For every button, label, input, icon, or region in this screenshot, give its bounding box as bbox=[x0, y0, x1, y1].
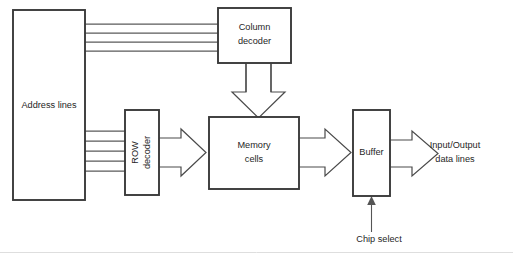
address-lines-label: Address lines bbox=[21, 100, 77, 110]
row-decoder-label-line1: ROW bbox=[130, 141, 140, 164]
block-diagram-svg: Address lines Column decoder ROW decoder… bbox=[0, 0, 513, 255]
arrow-row-decoder-to-memory-cells bbox=[159, 129, 206, 176]
block-row-decoder[interactable]: ROW decoder bbox=[125, 110, 159, 195]
hollow-right-arrow bbox=[299, 129, 351, 176]
io-data-lines-line1: Input/Output bbox=[430, 140, 481, 150]
memory-cells-box[interactable] bbox=[209, 117, 299, 189]
bus-address-to-row-decoder bbox=[85, 131, 125, 171]
block-memory-cells[interactable]: Memory cells bbox=[209, 117, 299, 189]
column-decoder-label-line1: Column bbox=[239, 22, 271, 32]
memory-cells-label-line1: Memory bbox=[237, 140, 271, 150]
arrow-memory-cells-to-buffer bbox=[299, 129, 351, 176]
block-diagram-canvas: Address lines Column decoder ROW decoder… bbox=[0, 0, 513, 255]
open-right-arrow bbox=[390, 131, 438, 176]
block-column-decoder[interactable]: Column decoder bbox=[218, 8, 291, 63]
hollow-right-arrow bbox=[159, 129, 206, 176]
io-data-lines-line2: data lines bbox=[435, 154, 475, 164]
bus-address-to-column-decoder bbox=[85, 24, 218, 51]
memory-cells-label-line2: cells bbox=[245, 154, 264, 164]
label-chip-select: Chip select bbox=[356, 234, 402, 244]
hollow-down-arrow bbox=[232, 63, 285, 118]
arrow-column-decoder-to-memory-cells bbox=[232, 61, 285, 118]
arrow-buffer-to-io-data-lines bbox=[390, 131, 438, 176]
chip-select-arrowhead bbox=[367, 196, 376, 205]
block-address-lines[interactable]: Address lines bbox=[13, 10, 85, 200]
row-decoder-label-line2: decoder bbox=[142, 136, 152, 169]
column-decoder-label-line2: decoder bbox=[238, 36, 271, 46]
buffer-label: Buffer bbox=[359, 147, 383, 157]
chip-select-label: Chip select bbox=[356, 234, 402, 244]
block-buffer[interactable]: Buffer bbox=[353, 110, 390, 196]
arrow-chip-select-to-buffer bbox=[367, 196, 376, 232]
